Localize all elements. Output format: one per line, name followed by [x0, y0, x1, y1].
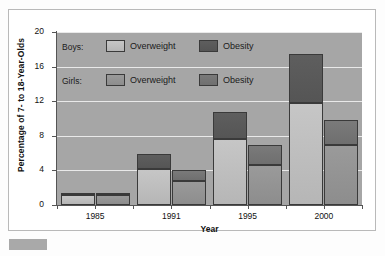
x-tick-1991 [171, 205, 172, 209]
bar-segment-boys-obesity-1991 [137, 154, 171, 169]
legend-label-boys-overweight: Overweight [130, 41, 176, 51]
bar-segment-boys-obesity-1995 [213, 112, 247, 139]
y-tick-8 [52, 136, 57, 137]
legend-label-girls-obesity: Obesity [223, 75, 254, 85]
legend-swatch-boys-overweight [106, 40, 125, 52]
bar-segment-boys-overweight-2000 [289, 103, 323, 205]
y-tick-label-12: 12 [0, 95, 52, 105]
bar-segment-girls-overweight-1985 [96, 195, 130, 205]
legend-swatch-girls-obesity [199, 74, 218, 86]
x-tick-boundary-1 [133, 205, 134, 209]
bar-segment-boys-overweight-1991 [137, 169, 171, 205]
y-tick-label-8: 8 [0, 130, 52, 140]
bar-segment-girls-overweight-2000 [324, 145, 358, 205]
legend-row-boys: Boys: Overweight Obesity [62, 38, 312, 60]
legend-group-label-boys: Boys: [62, 42, 83, 52]
y-tick-4 [52, 170, 57, 171]
bar-segment-boys-overweight-1985 [61, 195, 95, 205]
y-tick-label-20: 20 [0, 26, 52, 36]
bar-boys-1991 [137, 154, 171, 205]
bar-boys-2000 [289, 54, 323, 205]
x-tick-boundary-3 [286, 205, 287, 209]
x-tick-1995 [248, 205, 249, 209]
legend-row-girls: Girls: Overweight Obesity [62, 72, 312, 94]
bar-segment-girls-overweight-1991 [172, 181, 206, 205]
bar-segment-boys-obesity-2000 [289, 54, 323, 102]
x-tick-label-2000: 2000 [300, 211, 348, 221]
bar-girls-1995 [248, 145, 282, 205]
y-tick-20 [52, 32, 57, 33]
y-tick-12 [52, 101, 57, 102]
bar-segment-boys-overweight-1995 [213, 139, 247, 205]
bar-girls-1991 [172, 170, 206, 205]
gridline-y-20 [57, 32, 362, 33]
y-tick-label-0: 0 [0, 199, 52, 209]
chart-figure: Percentage of 7- to 18-Year-Olds Year Bo… [0, 0, 385, 256]
x-tick-2000 [324, 205, 325, 209]
corner-tab [9, 239, 47, 250]
x-axis-title: Year [57, 224, 362, 234]
legend-swatch-girls-overweight [106, 74, 125, 86]
bar-segment-girls-obesity-1991 [172, 170, 206, 181]
x-tick-boundary-4 [362, 205, 363, 209]
y-axis-line [56, 31, 57, 206]
bar-boys-1985 [61, 193, 95, 205]
bar-segment-girls-overweight-1995 [248, 165, 282, 205]
legend-swatch-boys-obesity [199, 40, 218, 52]
x-tick-label-1991: 1991 [147, 211, 195, 221]
y-tick-label-4: 4 [0, 164, 52, 174]
bar-segment-girls-obesity-2000 [324, 120, 358, 145]
chart-legend: Boys: Overweight Obesity Girls: Overweig… [62, 38, 312, 106]
x-tick-1985 [95, 205, 96, 209]
x-tick-boundary-2 [210, 205, 211, 209]
bar-segment-girls-obesity-1995 [248, 145, 282, 165]
x-tick-boundary-0 [57, 205, 58, 209]
y-tick-label-16: 16 [0, 61, 52, 71]
legend-label-girls-overweight: Overweight [130, 75, 176, 85]
y-tick-16 [52, 67, 57, 68]
bar-girls-2000 [324, 120, 358, 205]
x-tick-label-1995: 1995 [224, 211, 272, 221]
legend-label-boys-obesity: Obesity [223, 41, 254, 51]
x-tick-label-1985: 1985 [71, 211, 119, 221]
legend-group-label-girls: Girls: [62, 76, 82, 86]
bar-girls-1985 [96, 193, 130, 205]
bar-boys-1995 [213, 112, 247, 205]
